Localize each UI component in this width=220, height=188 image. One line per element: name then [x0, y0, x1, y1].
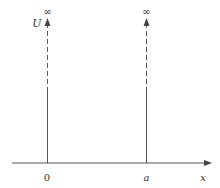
y-axis-label: U — [32, 17, 42, 30]
wall-position-label: a — [144, 172, 150, 183]
potential-well-diagram: ∞ ∞ U 0 a x — [0, 0, 220, 188]
left-infinity-label: ∞ — [43, 6, 51, 17]
origin-label: 0 — [44, 172, 50, 183]
right-infinity-label: ∞ — [142, 6, 150, 17]
x-axis-label: x — [200, 172, 206, 183]
